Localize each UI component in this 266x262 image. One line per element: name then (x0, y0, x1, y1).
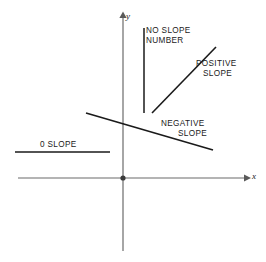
diagram-canvas (0, 0, 266, 262)
positive-slope-label-line1: POSITIVE (196, 59, 237, 68)
positive-slope-label-line2: SLOPE (196, 69, 237, 79)
slope-diagram-figure: NO SLOPE NUMBER POSITIVESLOPE NEGATIVESL… (0, 0, 266, 262)
x-axis-label: x (252, 172, 256, 181)
positive-slope-label: POSITIVESLOPE (196, 59, 237, 78)
zero-slope-label: 0 SLOPE (40, 140, 77, 150)
origin-point (120, 175, 125, 180)
negative-slope-label-line2: SLOPE (161, 129, 207, 139)
negative-slope-label: NEGATIVESLOPE (161, 119, 207, 138)
negative-slope-label-line1: NEGATIVE (161, 119, 205, 128)
x-axis-arrowhead (244, 174, 251, 181)
y-axis-label: y (126, 12, 130, 21)
no-slope-number-label: NO SLOPE NUMBER (146, 26, 191, 45)
positive-slope-line (152, 47, 216, 113)
